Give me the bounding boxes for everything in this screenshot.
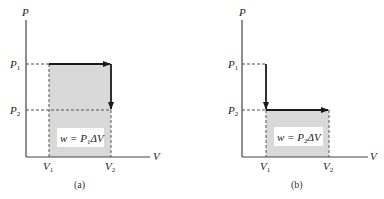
y-axis-label-a: P	[21, 6, 29, 18]
v1-label-b: V1	[260, 160, 271, 174]
p2-label-a: P2	[9, 104, 21, 118]
caption-b: (b)	[291, 179, 303, 191]
x-axis-label-a: V	[153, 150, 161, 162]
pv-diagram-figure: w = P1ΔV P V P1 P2 V1 V2 (a) w = P2ΔV P …	[0, 0, 384, 199]
p1-label-a: P1	[9, 58, 21, 72]
panel-b: w = P2ΔV P V P1 P2 V1 V2 (b)	[227, 6, 378, 191]
v1-label-a: V1	[43, 160, 54, 174]
p1-label-b: P1	[227, 58, 239, 72]
caption-a: (a)	[74, 179, 85, 191]
work-label-a: w = P1ΔV	[60, 132, 105, 146]
x-axis-label-b: V	[370, 150, 378, 162]
panel-a: w = P1ΔV P V P1 P2 V1 V2 (a)	[9, 6, 161, 191]
y-axis-label-b: P	[238, 6, 246, 18]
p2-label-b: P2	[227, 104, 239, 118]
work-label-b: w = P2ΔV	[277, 131, 322, 145]
v2-label-a: V2	[105, 160, 116, 174]
v2-label-b: V2	[323, 160, 334, 174]
